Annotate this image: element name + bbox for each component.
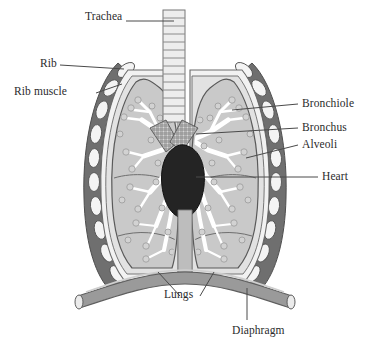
label-rib: Rib xyxy=(40,57,57,69)
label-trachea: Trachea xyxy=(85,10,122,22)
label-diaphragm: Diaphragm xyxy=(232,324,285,336)
label-bronchus: Bronchus xyxy=(302,121,347,133)
label-alveoli: Alveoli xyxy=(302,138,337,150)
heart xyxy=(162,145,205,218)
label-lungs: Lungs xyxy=(164,288,193,300)
diaphragm-end-left xyxy=(75,295,83,309)
label-rib-muscle: Rib muscle xyxy=(14,85,67,97)
trachea xyxy=(163,10,185,122)
diaphragm-end-right xyxy=(287,295,295,309)
label-heart: Heart xyxy=(322,170,348,182)
label-bronchiole: Bronchiole xyxy=(302,97,354,109)
mediastinum xyxy=(178,210,192,272)
respiratory-system-diagram: Trachea Rib Rib muscle Bronchiole Bronch… xyxy=(0,0,370,351)
